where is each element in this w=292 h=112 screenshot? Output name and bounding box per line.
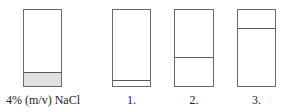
container-1 [112, 9, 151, 87]
container-label-2: 2. [174, 93, 214, 108]
container-label-reference: 4% (m/v) NaCl [0, 93, 86, 108]
container-2 [174, 9, 214, 87]
container-3 [237, 9, 276, 87]
liquid-level [24, 72, 61, 86]
liquid-level [175, 57, 213, 86]
liquid-level [238, 28, 275, 86]
container-label-3: 3. [237, 93, 276, 108]
liquid-level [113, 80, 150, 86]
container-label-1: 1. [112, 93, 151, 108]
reference-container [23, 9, 62, 87]
